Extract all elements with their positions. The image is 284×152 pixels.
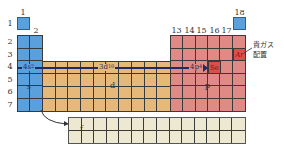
noble-gas-note-line2: 配置	[253, 51, 267, 59]
hydrogen-cell	[17, 17, 30, 30]
group-label-18: 18	[233, 9, 246, 17]
noble-gas-note-line1: 貴ガス	[253, 41, 274, 49]
group-label-17: 17	[220, 27, 233, 35]
period-label-7: 7	[6, 101, 14, 109]
block-label-d: d	[110, 82, 115, 90]
period-label-1: 1	[6, 20, 14, 28]
block-label-p: p	[205, 82, 210, 90]
f-block	[68, 117, 246, 144]
group-label-2: 2	[30, 27, 42, 35]
period-label-5: 5	[6, 76, 14, 84]
config-label-4s: 4s2	[22, 64, 35, 71]
f-block-arrow-icon	[38, 108, 72, 128]
block-label-f: f	[80, 125, 83, 133]
config-label-4p: 4p4	[189, 64, 203, 71]
period-label-4: 4	[6, 63, 14, 71]
period-label-3: 3	[6, 51, 14, 59]
group-label-1: 1	[17, 9, 29, 17]
selenium-cell: Se	[208, 61, 221, 74]
config-label-3d: 3d10	[98, 64, 115, 71]
period-label-2: 2	[6, 38, 14, 46]
period-label-6: 6	[6, 88, 14, 96]
s-block	[17, 35, 43, 112]
arrow-head-icon	[203, 64, 208, 72]
block-label-s: s	[27, 83, 31, 91]
group-label-15: 15	[195, 27, 208, 35]
helium-cell	[233, 17, 246, 30]
group-label-13: 13	[170, 27, 183, 35]
